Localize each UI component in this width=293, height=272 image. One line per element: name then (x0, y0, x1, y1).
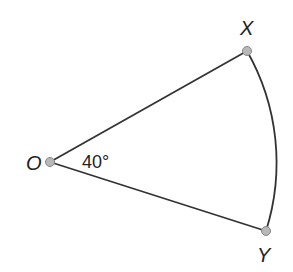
label-o: O (26, 152, 42, 174)
label-y: Y (257, 244, 272, 266)
point-o (46, 158, 55, 167)
sector-diagram: O X Y 40° (0, 0, 293, 272)
point-x (243, 47, 252, 56)
arc-xy (247, 51, 277, 231)
label-x: X (239, 17, 254, 39)
point-y (262, 227, 271, 236)
radius-oy (50, 162, 266, 231)
radius-ox (50, 51, 247, 162)
diagram-svg: O X Y 40° (0, 0, 293, 272)
angle-label: 40° (82, 152, 109, 172)
